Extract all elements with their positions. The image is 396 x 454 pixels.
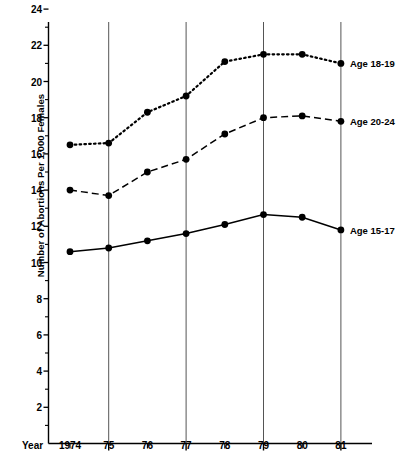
y-tick-label-10: 10 [20,257,42,268]
data-point-2-77 [183,230,190,237]
x-tick-label-79: 79 [244,440,284,451]
y-tick-label-22: 22 [20,40,42,51]
series-line-age-20-24 [70,116,341,196]
data-point-1-78 [221,131,228,138]
data-point-0-77 [183,93,190,100]
data-point-2-79 [260,211,267,218]
y-tick-label-12: 12 [20,221,42,232]
y-tick-label-4: 4 [20,366,42,377]
data-point-1-77 [183,156,190,163]
data-point-0-79 [260,51,267,58]
series-label-age-18-19: Age 18-19 [350,58,395,69]
y-tick-label-20: 20 [20,76,42,87]
data-point-2-78 [221,221,228,228]
data-point-2-81 [338,227,345,234]
data-point-1-81 [338,118,345,125]
y-tick-label-14: 14 [20,185,42,196]
x-tick-label-75: 75 [89,440,129,451]
data-point-2-80 [299,214,306,221]
data-point-1-76 [144,169,151,176]
x-tick-label-81: 81 [321,440,361,451]
data-point-0-75 [105,140,112,147]
y-tick-label-2: 2 [20,402,42,413]
data-point-1-79 [260,114,267,121]
x-tick-label-77: 77 [166,440,206,451]
data-point-0-81 [338,60,345,67]
data-point-0-80 [299,51,306,58]
x-tick-label-78: 78 [205,440,245,451]
plot-area [0,0,396,454]
data-point-1-75 [105,192,112,199]
y-tick-label-6: 6 [20,329,42,340]
data-point-0-78 [221,58,228,65]
data-point-2-76 [144,237,151,244]
abortion-rate-line-chart: Number of Abortions Per 1,000 Females 24… [0,0,396,454]
x-tick-label-76: 76 [127,440,167,451]
y-tick-label-24: 24 [20,4,42,15]
series-label-age-20-24: Age 20-24 [350,116,395,127]
y-tick-label-18: 18 [20,112,42,123]
data-point-0-1974 [67,141,74,148]
data-point-2-1974 [67,248,74,255]
x-axis-title: Year [22,440,43,451]
data-point-2-75 [105,245,112,252]
data-point-1-1974 [67,187,74,194]
y-tick-label-16: 16 [20,148,42,159]
x-tick-label-80: 80 [282,440,322,451]
series-line-age-18-19 [70,54,341,145]
data-point-1-80 [299,112,306,119]
data-point-0-76 [144,109,151,116]
y-tick-label-8: 8 [20,293,42,304]
x-tick-label-1974: 1974 [50,440,90,451]
series-label-age-15-17: Age 15-17 [350,224,395,235]
